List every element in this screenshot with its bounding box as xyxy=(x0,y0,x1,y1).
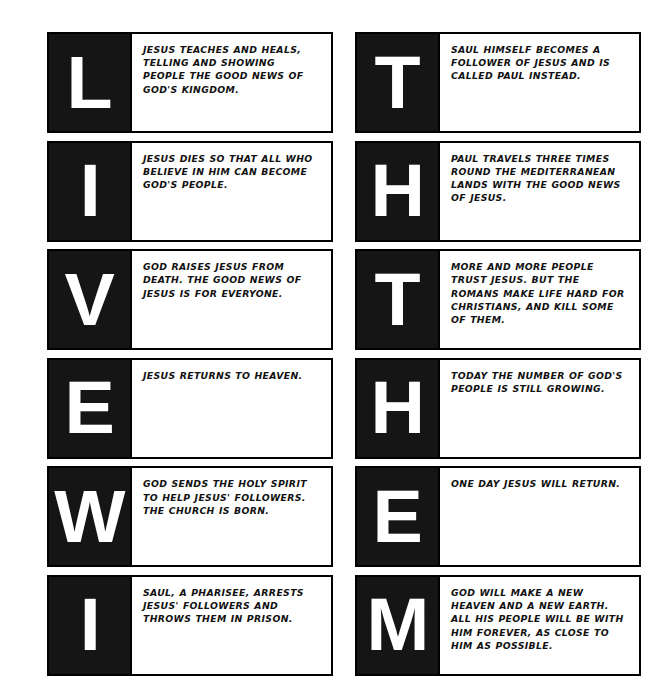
text-panel: ONE DAY JESUS WILL RETURN. xyxy=(438,468,639,565)
worksheet-page: L JESUS TEACHES AND HEALS, TELLING AND S… xyxy=(0,0,669,693)
text-panel: PAUL TRAVELS THREE TIMES ROUND THE MEDIT… xyxy=(438,143,639,240)
letter-glyph: T xyxy=(375,46,420,120)
letter-panel: H xyxy=(357,143,438,240)
text-panel: JESUS DIES SO THAT ALL WHO BELIEVE IN HI… xyxy=(130,143,331,240)
letter-card[interactable]: M GOD WILL MAKE A NEW HEAVEN AND A NEW E… xyxy=(355,575,641,676)
letter-card[interactable]: I SAUL, A PHARISEE, ARRESTS JESUS' FOLLO… xyxy=(47,575,333,676)
text-panel: TODAY THE NUMBER OF GOD'S PEOPLE IS STIL… xyxy=(438,360,639,457)
text-panel: JESUS TEACHES AND HEALS, TELLING AND SHO… xyxy=(130,34,331,131)
card-text: MORE AND MORE PEOPLE TRUST JESUS. BUT TH… xyxy=(451,260,629,326)
letter-card[interactable]: W GOD SENDS THE HOLY SPIRIT TO HELP JESU… xyxy=(47,466,333,567)
letter-glyph: V xyxy=(65,263,114,337)
letter-card[interactable]: H PAUL TRAVELS THREE TIMES ROUND THE MED… xyxy=(355,141,641,242)
text-panel: SAUL, A PHARISEE, ARRESTS JESUS' FOLLOWE… xyxy=(130,577,331,674)
card-text: SAUL HIMSELF BECOMES A FOLLOWER OF JESUS… xyxy=(451,43,629,83)
letter-glyph: T xyxy=(375,263,420,337)
letter-glyph: H xyxy=(371,371,425,445)
card-text: PAUL TRAVELS THREE TIMES ROUND THE MEDIT… xyxy=(451,152,629,205)
letter-card[interactable]: L JESUS TEACHES AND HEALS, TELLING AND S… xyxy=(47,32,333,133)
letter-glyph: E xyxy=(65,371,114,445)
letter-card[interactable]: E JESUS RETURNS TO HEAVEN. xyxy=(47,358,333,459)
letter-panel: E xyxy=(49,360,130,457)
card-text: JESUS TEACHES AND HEALS, TELLING AND SHO… xyxy=(143,43,321,96)
letter-glyph: E xyxy=(373,480,422,554)
letter-glyph: L xyxy=(67,46,112,120)
letter-panel: L xyxy=(49,34,130,131)
card-text: GOD RAISES JESUS FROM DEATH. THE GOOD NE… xyxy=(143,260,321,300)
text-panel: GOD SENDS THE HOLY SPIRIT TO HELP JESUS'… xyxy=(130,468,331,565)
text-panel: MORE AND MORE PEOPLE TRUST JESUS. BUT TH… xyxy=(438,251,639,348)
letter-panel: I xyxy=(49,143,130,240)
text-panel: GOD RAISES JESUS FROM DEATH. THE GOOD NE… xyxy=(130,251,331,348)
letter-panel: E xyxy=(357,468,438,565)
card-text: JESUS RETURNS TO HEAVEN. xyxy=(143,369,321,382)
card-text: GOD SENDS THE HOLY SPIRIT TO HELP JESUS'… xyxy=(143,477,321,517)
letter-glyph: H xyxy=(371,154,425,228)
text-panel: JESUS RETURNS TO HEAVEN. xyxy=(130,360,331,457)
letter-panel: I xyxy=(49,577,130,674)
card-grid: L JESUS TEACHES AND HEALS, TELLING AND S… xyxy=(47,32,641,676)
letter-card[interactable]: T MORE AND MORE PEOPLE TRUST JESUS. BUT … xyxy=(355,249,641,350)
letter-glyph: I xyxy=(80,588,100,662)
text-panel: SAUL HIMSELF BECOMES A FOLLOWER OF JESUS… xyxy=(438,34,639,131)
card-text: GOD WILL MAKE A NEW HEAVEN AND A NEW EAR… xyxy=(451,586,629,652)
letter-glyph: M xyxy=(367,588,429,662)
card-text: JESUS DIES SO THAT ALL WHO BELIEVE IN HI… xyxy=(143,152,321,192)
letter-card[interactable]: H TODAY THE NUMBER OF GOD'S PEOPLE IS ST… xyxy=(355,358,641,459)
letter-card[interactable]: V GOD RAISES JESUS FROM DEATH. THE GOOD … xyxy=(47,249,333,350)
text-panel: GOD WILL MAKE A NEW HEAVEN AND A NEW EAR… xyxy=(438,577,639,674)
letter-glyph: W xyxy=(54,480,124,554)
letter-panel: H xyxy=(357,360,438,457)
letter-panel: T xyxy=(357,251,438,348)
letter-card[interactable]: I JESUS DIES SO THAT ALL WHO BELIEVE IN … xyxy=(47,141,333,242)
letter-panel: T xyxy=(357,34,438,131)
letter-panel: V xyxy=(49,251,130,348)
letter-card[interactable]: T SAUL HIMSELF BECOMES A FOLLOWER OF JES… xyxy=(355,32,641,133)
letter-panel: M xyxy=(357,577,438,674)
card-text: TODAY THE NUMBER OF GOD'S PEOPLE IS STIL… xyxy=(451,369,629,395)
card-text: ONE DAY JESUS WILL RETURN. xyxy=(451,477,629,490)
card-text: SAUL, A PHARISEE, ARRESTS JESUS' FOLLOWE… xyxy=(143,586,321,626)
letter-glyph: I xyxy=(80,154,100,228)
letter-panel: W xyxy=(49,468,130,565)
letter-card[interactable]: E ONE DAY JESUS WILL RETURN. xyxy=(355,466,641,567)
